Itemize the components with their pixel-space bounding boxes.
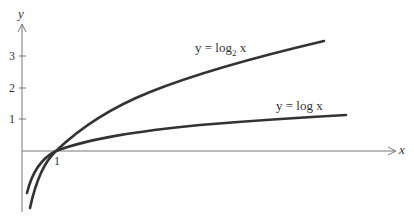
log10-annotation: y = log x: [276, 99, 323, 112]
y-tick-label-2: 2: [9, 82, 15, 94]
y-axis-label: y: [18, 7, 24, 20]
log2-curve: [30, 41, 324, 208]
log2-annotation-text: y = log: [195, 40, 232, 55]
chart-canvas: [0, 0, 414, 220]
log2-annotation: y = log2 x: [195, 41, 246, 58]
log2-annotation-var: x: [236, 40, 246, 55]
y-tick-label-1: 1: [9, 113, 15, 125]
x-axis-label: x: [399, 143, 405, 156]
log10-curve: [27, 115, 346, 193]
y-tick-label-3: 3: [9, 50, 15, 62]
x-tick-label-1: 1: [54, 155, 60, 167]
